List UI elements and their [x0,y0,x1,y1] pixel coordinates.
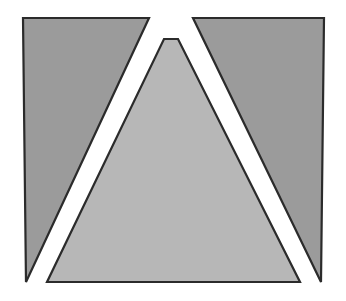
chevron-arrow-figure [0,0,346,301]
figure-canvas [0,0,346,301]
